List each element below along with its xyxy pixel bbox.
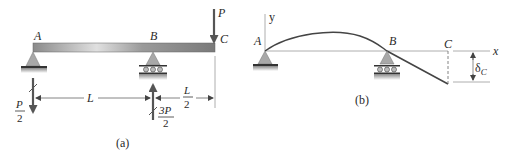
- reaction-a-numerator: P: [15, 98, 23, 110]
- dimension-l-half-denominator: 2: [184, 98, 190, 110]
- roller-support-b: [139, 52, 167, 80]
- caption-b: (b): [355, 93, 369, 107]
- point-label-b: B: [389, 34, 397, 48]
- reaction-a-denominator: 2: [17, 112, 23, 124]
- pin-support-a: [21, 52, 47, 73]
- reaction-b-numerator: 3P: [158, 104, 172, 116]
- beam-diagram: P A B C P 2 3P 2 L: [0, 0, 516, 153]
- pin-support-a: [253, 51, 278, 71]
- reaction-arrow-a: [29, 78, 37, 112]
- point-label-a: A: [253, 34, 262, 48]
- dimension-l-half-numerator: L: [183, 84, 190, 96]
- beam: [33, 43, 215, 52]
- y-axis-label: y: [269, 10, 275, 24]
- figure-a: P A B C P 2 3P 2 L: [15, 6, 229, 150]
- point-label-b: B: [150, 29, 158, 43]
- point-label-c: C: [444, 37, 453, 51]
- deflection-symbol: δC: [475, 61, 488, 77]
- reaction-arrow-b: [149, 85, 157, 120]
- dimension-label-l: L: [86, 91, 94, 105]
- point-label-c: C: [220, 32, 229, 46]
- load-label-p: P: [217, 6, 226, 20]
- caption-a: (a): [116, 136, 129, 150]
- point-label-a: A: [33, 29, 42, 43]
- reaction-b-denominator: 2: [163, 117, 169, 129]
- figure-b: y x δC: [253, 10, 499, 107]
- deflection-curve: [265, 32, 448, 84]
- x-axis-label: x: [492, 44, 499, 58]
